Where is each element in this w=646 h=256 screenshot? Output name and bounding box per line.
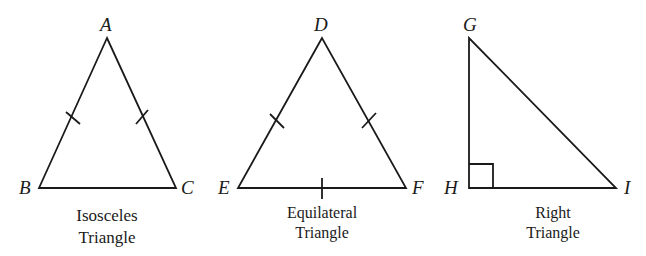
vertex-label-i: I [624,178,630,197]
caption-right-line1: Right [503,203,603,223]
caption-equilateral-line2: Triangle [272,223,372,243]
caption-equilateral-line1: Equilateral [272,203,372,223]
caption-equilateral: Equilateral Triangle [272,203,372,243]
vertex-label-d: D [314,15,328,34]
vertex-label-a: A [100,15,112,34]
caption-isosceles-line2: Triangle [57,227,157,249]
right-angle-marker [469,164,493,188]
vertex-label-f: F [412,178,424,197]
vertex-label-h: H [444,178,458,197]
right-triangle-shape [469,38,616,188]
caption-isosceles-line1: Isosceles [57,205,157,227]
vertex-label-e: E [218,178,230,197]
tick-mark-df [362,113,376,128]
equilateral-triangle-shape [238,38,406,188]
vertex-label-g: G [463,15,477,34]
caption-isosceles: Isosceles Triangle [57,205,157,249]
caption-right: Right Triangle [503,203,603,243]
vertex-label-b: B [19,178,31,197]
caption-right-line2: Triangle [503,223,603,243]
vertex-label-c: C [181,178,194,197]
isosceles-triangle-shape [39,38,176,188]
